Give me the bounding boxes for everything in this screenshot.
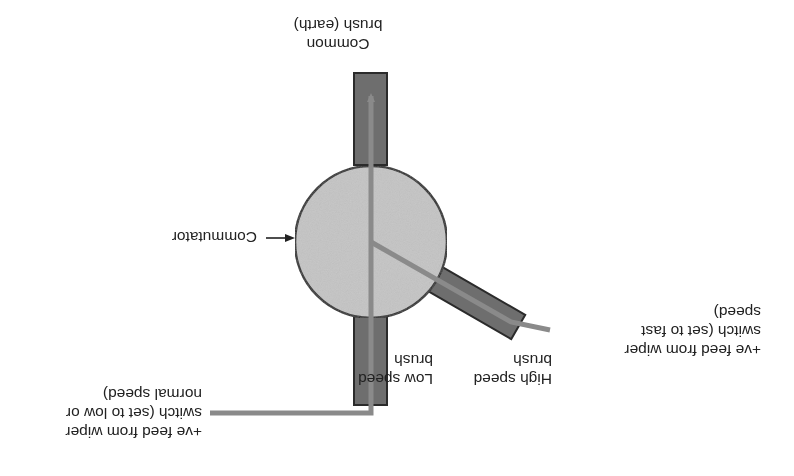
- low-speed-brush-label-line1: Low speed: [358, 371, 433, 388]
- high-feed-label-line1: +ve feed from wiper: [624, 342, 761, 359]
- common-brush-label-line2: brush (earth): [294, 17, 383, 34]
- low-feed-label-line3: normal speed): [103, 386, 202, 403]
- low-feed-label-line2: switch (set to low or: [66, 405, 202, 422]
- low-feed-label-line1: +ve feed from wiper: [65, 424, 202, 441]
- low-speed-brush-label-line2: brush: [394, 352, 433, 369]
- commutator-arrowhead-icon: [285, 234, 295, 242]
- low-speed-feed-label: +ve feed from wiper switch (set to low o…: [65, 386, 202, 441]
- high-speed-brush-label-line2: brush: [513, 352, 552, 369]
- high-feed-label-line3: speed): [714, 304, 761, 321]
- high-speed-brush-label-line1: High speed: [474, 371, 552, 388]
- commutator-label: Commutator: [172, 229, 257, 246]
- common-brush-label: Common brush (earth): [294, 17, 383, 53]
- high-feed-label-line2: switch (set to fast: [641, 323, 761, 340]
- diagram-canvas: Common brush (earth) Commutator Low spee…: [0, 0, 794, 476]
- high-speed-feed-label: +ve feed from wiper switch (set to fast …: [624, 304, 761, 359]
- common-brush-label-line1: Common: [307, 36, 370, 53]
- wiper-motor-brush-diagram: Common brush (earth) Commutator Low spee…: [0, 0, 794, 476]
- high-speed-brush-label: High speed brush: [474, 352, 552, 388]
